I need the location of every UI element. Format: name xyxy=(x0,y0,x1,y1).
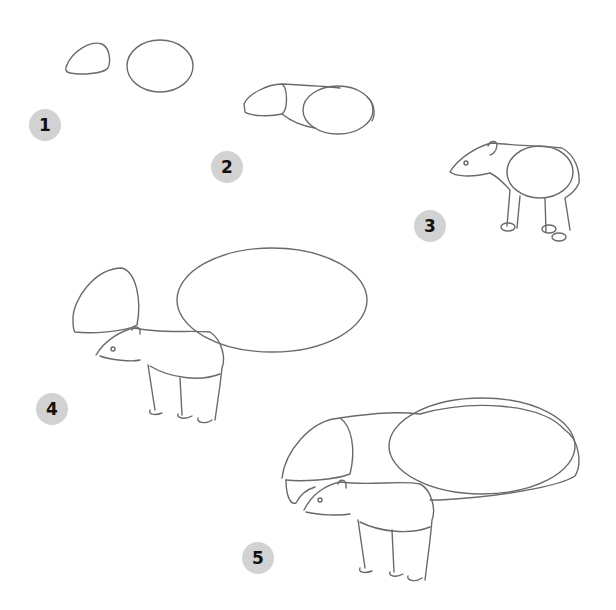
step-badge-1: 1 xyxy=(29,109,61,141)
step-badge-3: 3 xyxy=(414,210,446,242)
step-badge-4: 4 xyxy=(36,393,68,425)
step-3-drawing xyxy=(450,142,579,242)
drawing-canvas xyxy=(0,0,616,610)
step-2-drawing xyxy=(244,84,374,134)
step-5-drawing xyxy=(282,398,579,581)
step-4-drawing xyxy=(73,248,367,423)
step-1-drawing xyxy=(66,40,193,92)
step-badge-5: 5 xyxy=(242,542,274,574)
step-badge-2: 2 xyxy=(211,151,243,183)
